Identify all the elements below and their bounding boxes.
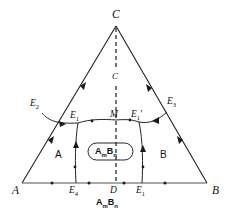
- region-label-ambn-n: n: [113, 152, 117, 158]
- boundary-e1-m: [78, 119, 116, 123]
- vertex-label-b: B: [212, 185, 219, 197]
- point-label-e3: E3: [167, 97, 176, 108]
- region-label-a: A: [55, 150, 62, 160]
- point-label-e4-sub: 4: [75, 190, 78, 197]
- point-label-d: D: [110, 186, 117, 196]
- bottom-compound-n: n: [114, 203, 118, 209]
- point-label-c-inner: C: [112, 72, 118, 81]
- region-label-ambn: AmBn: [95, 147, 117, 158]
- point-label-e1-bottom: E1: [136, 186, 145, 197]
- boundary-e1prime-e1bottom: [139, 122, 143, 183]
- tick-bottom-4: [164, 182, 167, 185]
- vertex-label-c: C: [112, 9, 120, 21]
- point-label-e1-prime: E1': [131, 110, 142, 121]
- point-label-e1-left-sub: 1: [76, 115, 79, 122]
- tick-bottom-1: [51, 182, 54, 185]
- bottom-compound-label: AmBn: [96, 198, 118, 209]
- vertex-label-a: A: [12, 185, 19, 197]
- region-label-b: B: [160, 150, 167, 160]
- arrow-edge-ac-upper: [80, 82, 86, 90]
- arrow-boundary-right-vertical: [140, 145, 146, 152]
- point-label-e1-prime-mark: ': [140, 109, 142, 119]
- tick-bottom-3: [123, 182, 126, 185]
- point-label-e1-bottom-sub: 1: [142, 190, 145, 197]
- point-label-e2: E2: [30, 99, 39, 110]
- arrow-edge-cb-upper: [146, 84, 152, 92]
- ternary-phase-diagram: .solid-line { stroke: #1a1a1a; stroke-wi…: [0, 0, 229, 220]
- arrow-boundary-left-vertical: [73, 141, 79, 148]
- edge-direction-arrows: [48, 82, 183, 185]
- point-label-e4: E4: [69, 186, 78, 197]
- point-label-m: M: [110, 110, 118, 120]
- tick-boundary-left-lower: [74, 166, 77, 169]
- tick-bottom-2: [88, 182, 91, 185]
- triangle-edges: [22, 26, 207, 183]
- tick-boundary-top-left: [91, 120, 94, 123]
- tick-boundary-right-lower: [142, 166, 145, 169]
- arrow-boundary-e3-e1prime: [152, 117, 159, 124]
- point-label-e2-sub: 2: [36, 103, 39, 110]
- point-label-e1-left: E1: [70, 111, 79, 122]
- arrow-boundary-e2-e1: [59, 121, 66, 127]
- boundary-e1-e4: [75, 123, 78, 183]
- point-label-e3-sub: 3: [173, 101, 176, 108]
